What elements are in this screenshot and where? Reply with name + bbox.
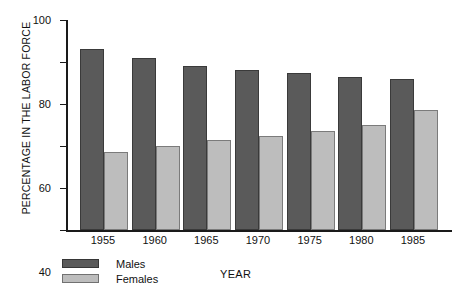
plot-area: 020406080100 195519601965197019751980198… <box>66 20 452 230</box>
bar-males-1970 <box>235 70 259 230</box>
bar-males-1960 <box>132 58 156 230</box>
y-tick-mark: 20 <box>60 188 66 189</box>
legend-label: Females <box>116 273 158 285</box>
legend-swatch-females <box>62 274 99 283</box>
bar-group <box>285 20 335 230</box>
y-tick-mark: 80 <box>60 62 66 63</box>
bar-males-1955 <box>80 49 104 230</box>
bar-group <box>181 20 231 230</box>
bar-females-1980 <box>362 125 386 230</box>
bar-males-1985 <box>390 79 414 230</box>
y-tick-mark: 100 <box>60 20 66 21</box>
x-axis-line <box>66 230 452 232</box>
y-tick-label: 60 <box>39 182 51 194</box>
bar-females-1985 <box>414 110 438 230</box>
y-tick-mark: 40 <box>60 146 66 147</box>
y-tick-mark: 60 <box>60 104 66 105</box>
y-tick-label: 100 <box>33 14 51 26</box>
bar-group <box>336 20 386 230</box>
y-tick-mark: 0 <box>60 230 66 231</box>
y-axis-title: PERCENTAGE IN THE LABOR FORCE <box>20 8 32 228</box>
bar-chart: PERCENTAGE IN THE LABOR FORCE 0204060801… <box>0 0 471 300</box>
bar-males-1980 <box>338 77 362 230</box>
bar-group <box>78 20 128 230</box>
bar-females-1970 <box>259 136 283 231</box>
x-axis-title: YEAR <box>220 268 251 280</box>
y-axis-line <box>66 20 68 231</box>
bar-females-1960 <box>156 146 180 230</box>
legend-item-males: Males <box>62 256 302 271</box>
bar-females-1975 <box>311 131 335 230</box>
bar-group <box>388 20 438 230</box>
bar-females-1955 <box>104 152 128 230</box>
y-tick-label: 80 <box>39 98 51 110</box>
bar-females-1965 <box>207 140 231 230</box>
legend-item-females: Females <box>62 271 302 286</box>
legend-label: Males <box>116 258 145 270</box>
legend: MalesFemales <box>62 256 302 286</box>
bar-males-1975 <box>287 73 311 231</box>
bar-males-1965 <box>183 66 207 230</box>
x-tick-label: 1985 <box>383 234 443 246</box>
bar-group <box>233 20 283 230</box>
y-tick-label: 40 <box>39 266 51 278</box>
legend-swatch-males <box>62 259 99 268</box>
bar-group <box>130 20 180 230</box>
